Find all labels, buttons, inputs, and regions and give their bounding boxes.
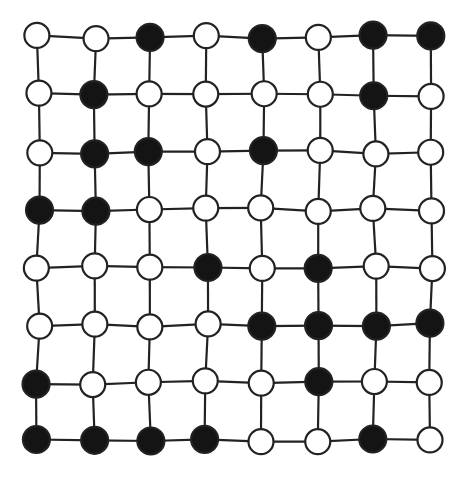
node-filled-r4-c1 bbox=[26, 197, 53, 224]
node-open-r4-c4 bbox=[193, 196, 218, 221]
node-open-r2-c1 bbox=[26, 81, 51, 106]
node-open-r5-c3 bbox=[137, 255, 162, 280]
node-open-r1-c6 bbox=[306, 25, 331, 50]
node-open-r7-c3 bbox=[136, 370, 161, 395]
node-open-r3-c7 bbox=[363, 141, 388, 166]
node-filled-r2-c7 bbox=[360, 82, 387, 109]
node-open-r8-c8 bbox=[417, 427, 442, 452]
node-open-r5-c2 bbox=[82, 253, 107, 278]
node-open-r7-c2 bbox=[80, 372, 105, 397]
node-open-r8-c5 bbox=[248, 429, 273, 454]
node-filled-r6-c6 bbox=[305, 312, 332, 339]
node-filled-r5-c4 bbox=[194, 254, 221, 281]
node-open-r6-c4 bbox=[196, 311, 221, 336]
node-filled-r8-c1 bbox=[23, 426, 50, 453]
node-open-r2-c4 bbox=[193, 82, 218, 107]
node-open-r4-c3 bbox=[137, 197, 162, 222]
node-open-r1-c2 bbox=[84, 26, 109, 51]
node-open-r3-c6 bbox=[308, 138, 333, 163]
node-open-r5-c5 bbox=[250, 256, 275, 281]
node-open-r4-c5 bbox=[248, 195, 273, 220]
node-filled-r8-c4 bbox=[191, 426, 218, 453]
node-open-r3-c1 bbox=[27, 140, 52, 165]
node-open-r7-c8 bbox=[417, 370, 442, 395]
node-filled-r3-c3 bbox=[135, 138, 162, 165]
node-open-r5-c8 bbox=[420, 256, 445, 281]
node-filled-r7-c1 bbox=[23, 371, 50, 398]
node-open-r6-c1 bbox=[27, 314, 52, 339]
node-filled-r5-c6 bbox=[305, 255, 332, 282]
node-open-r7-c7 bbox=[362, 369, 387, 394]
node-open-r4-c6 bbox=[306, 199, 331, 224]
node-open-r1-c1 bbox=[24, 23, 49, 48]
node-open-r3-c8 bbox=[418, 140, 443, 165]
node-open-r2-c6 bbox=[308, 82, 333, 107]
node-filled-r1-c3 bbox=[137, 24, 164, 51]
node-open-r2-c5 bbox=[252, 81, 277, 106]
lattice-figure bbox=[0, 0, 473, 482]
node-filled-r3-c2 bbox=[81, 140, 108, 167]
node-filled-r1-c7 bbox=[360, 22, 387, 49]
node-open-r5-c7 bbox=[364, 254, 389, 279]
node-filled-r4-c2 bbox=[82, 198, 109, 225]
node-filled-r6-c5 bbox=[248, 313, 275, 340]
node-open-r6-c3 bbox=[137, 314, 162, 339]
node-open-r7-c5 bbox=[249, 371, 274, 396]
node-open-r8-c6 bbox=[305, 429, 330, 454]
node-filled-r8-c7 bbox=[359, 425, 386, 452]
node-open-r4-c7 bbox=[360, 196, 385, 221]
node-filled-r1-c8 bbox=[417, 22, 444, 49]
node-open-r2-c8 bbox=[419, 84, 444, 109]
node-open-r4-c8 bbox=[419, 198, 444, 223]
node-filled-r6-c7 bbox=[363, 313, 390, 340]
node-open-r5-c1 bbox=[24, 256, 49, 281]
node-filled-r1-c5 bbox=[249, 25, 276, 52]
node-filled-r6-c8 bbox=[416, 310, 443, 337]
node-filled-r8-c2 bbox=[81, 427, 108, 454]
node-filled-r8-c3 bbox=[137, 428, 164, 455]
node-filled-r7-c6 bbox=[305, 368, 332, 395]
node-open-r2-c3 bbox=[137, 81, 162, 106]
node-open-r6-c2 bbox=[82, 312, 107, 337]
node-open-r3-c4 bbox=[195, 139, 220, 164]
node-open-r7-c4 bbox=[193, 368, 218, 393]
node-filled-r3-c5 bbox=[250, 137, 277, 164]
lattice-graph bbox=[0, 0, 473, 482]
node-open-r1-c4 bbox=[194, 23, 219, 48]
node-filled-r2-c2 bbox=[80, 81, 107, 108]
